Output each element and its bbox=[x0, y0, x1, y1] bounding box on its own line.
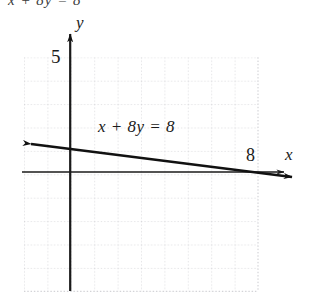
grid-lines bbox=[24, 57, 258, 291]
x-tick-label-8: 8 bbox=[246, 146, 255, 164]
graph-figure: x + 8y = 8 bbox=[0, 0, 309, 296]
coordinate-plane bbox=[0, 0, 309, 296]
y-tick-label-5: 5 bbox=[51, 47, 61, 66]
y-axis-label: y bbox=[76, 14, 84, 31]
equation-label: x + 8y = 8 bbox=[98, 118, 175, 135]
x-axis-label: x bbox=[285, 146, 293, 163]
